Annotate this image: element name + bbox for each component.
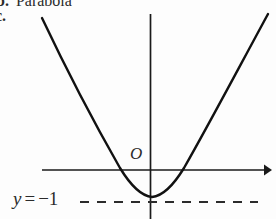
figure-page: b.Parabola c. O y=−1 [0,0,276,219]
line-equation-equals: = [24,188,35,209]
origin-label: O [130,145,142,162]
x-axis-arrow-icon [264,165,272,176]
line-equation-value: −1 [38,188,58,209]
line-equation-label: y=−1 [13,189,58,208]
x-axis [42,165,272,176]
parabola-figure [0,0,276,219]
line-equation-variable: y [13,188,21,209]
